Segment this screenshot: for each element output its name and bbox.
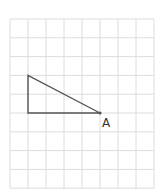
vertex-a-label: A <box>102 117 110 129</box>
vertex-a-dot <box>98 111 101 114</box>
grid-diagram <box>0 0 163 193</box>
